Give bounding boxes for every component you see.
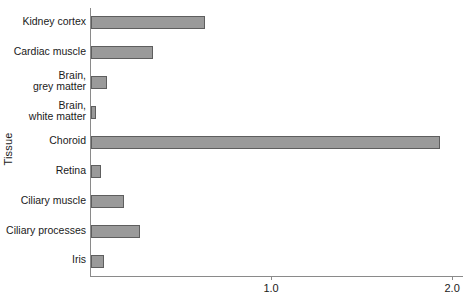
bar-ciliary-processes bbox=[91, 219, 140, 243]
category-label: Ciliary muscle bbox=[0, 195, 86, 207]
category-label: Iris bbox=[0, 254, 86, 266]
bar-rect bbox=[91, 225, 140, 238]
bar-ciliary-muscle bbox=[91, 190, 124, 214]
category-label: Brain, white matter bbox=[0, 100, 86, 123]
bar-brain-white-matter bbox=[91, 100, 96, 124]
bar-brain-grey-matter bbox=[91, 70, 107, 94]
bar-rect bbox=[91, 76, 107, 89]
x-tick-mark bbox=[452, 276, 453, 280]
bar-rect bbox=[91, 46, 153, 59]
x-tick-label: 2.0 bbox=[432, 282, 463, 294]
category-label: Kidney cortex bbox=[0, 16, 86, 28]
bar-rect bbox=[91, 136, 440, 149]
bar-kidney-cortex bbox=[91, 11, 205, 35]
bar-rect bbox=[91, 16, 205, 29]
x-axis-line bbox=[90, 276, 463, 277]
bar-choroid bbox=[91, 130, 440, 154]
category-label: Brain, grey matter bbox=[0, 70, 86, 93]
bar-cardiac-muscle bbox=[91, 41, 153, 65]
x-tick-label: 1.0 bbox=[251, 282, 291, 294]
category-label: Ciliary processes bbox=[0, 225, 86, 237]
bar-iris bbox=[91, 249, 104, 273]
bar-rect bbox=[91, 255, 104, 268]
bar-rect bbox=[91, 165, 101, 178]
bar-retina bbox=[91, 160, 101, 184]
bar-rect bbox=[91, 106, 96, 119]
x-tick-mark bbox=[271, 276, 272, 280]
bar-chart: Tissue Kidney cortexCardiac muscleBrain,… bbox=[0, 0, 463, 298]
category-label: Retina bbox=[0, 165, 86, 177]
plot-area: Kidney cortexCardiac muscleBrain, grey m… bbox=[90, 8, 463, 276]
category-label: Choroid bbox=[0, 135, 86, 147]
category-label: Cardiac muscle bbox=[0, 46, 86, 58]
bar-rect bbox=[91, 195, 124, 208]
